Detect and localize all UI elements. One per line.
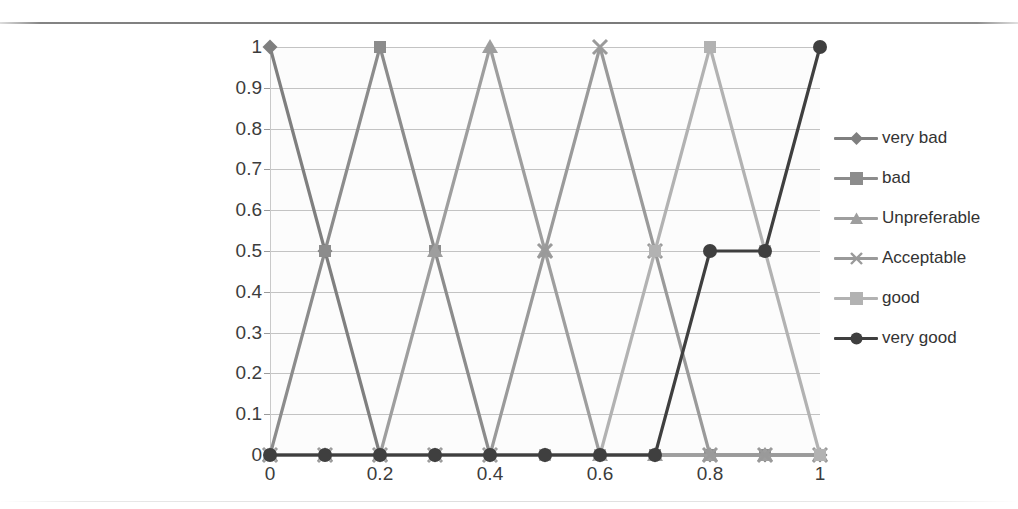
y-tick-label: 0.4 (220, 282, 262, 301)
y-tick-label: 0.2 (220, 363, 262, 382)
y-tick-label: 1 (220, 37, 262, 56)
legend-item-label: good (882, 289, 920, 307)
x-axis-tick-labels: 00.20.40.60.81 (270, 464, 820, 492)
scanned-figure-page: 00.10.20.30.40.50.60.70.80.91 00.20.40.6… (0, 0, 1018, 509)
legend-item-label: Acceptable (882, 249, 966, 267)
data-point-marker (704, 41, 716, 53)
page-top-rule (0, 22, 1018, 24)
chart-legend: very badbadUnpreferableAcceptablegoodver… (834, 118, 1010, 358)
legend-key (834, 169, 878, 187)
x-tick-label: 0.8 (697, 464, 723, 483)
y-tick-label: 0.8 (220, 119, 262, 138)
data-point-marker (758, 244, 772, 258)
x-tick-label: 1 (815, 464, 826, 483)
data-point-marker (483, 448, 497, 462)
legend-key (834, 249, 878, 267)
data-point-marker (538, 448, 552, 462)
data-point-marker (850, 172, 863, 185)
data-point-marker (813, 40, 827, 54)
legend-item-label: Unpreferable (882, 209, 980, 227)
data-point-marker (703, 244, 717, 258)
y-tick-label: 0.6 (220, 200, 262, 219)
data-point-marker (648, 448, 662, 462)
data-point-marker (649, 245, 661, 257)
y-tick-label: 0.1 (220, 404, 262, 423)
data-point-marker (482, 39, 498, 53)
x-tick-label: 0.2 (367, 464, 393, 483)
data-point-marker (373, 448, 387, 462)
y-tick-label: 0.7 (220, 159, 262, 178)
legend-item-label: very bad (882, 129, 947, 147)
x-tick-label: 0.6 (587, 464, 613, 483)
legend-key (834, 129, 878, 147)
page-bottom-rule (0, 501, 1018, 502)
legend-item-good[interactable]: good (834, 278, 1010, 318)
data-point-marker (851, 333, 863, 345)
y-tick-label: 0.9 (220, 78, 262, 97)
data-point-marker (814, 449, 826, 461)
legend-square-icon (850, 291, 863, 304)
legend-item-very-good[interactable]: very good (834, 318, 1010, 358)
x-tick-label: 0.4 (477, 464, 503, 483)
legend-key (834, 209, 878, 227)
data-point-marker (428, 448, 442, 462)
data-point-marker (319, 245, 331, 257)
legend-key (834, 289, 878, 307)
legend-diamond-icon (850, 131, 863, 144)
legend-item-bad[interactable]: bad (834, 158, 1010, 198)
y-tick-label: 0.3 (220, 323, 262, 342)
data-point-marker (318, 448, 332, 462)
legend-circle-icon (850, 331, 863, 344)
data-point-marker (374, 41, 386, 53)
data-point-marker (850, 292, 863, 305)
legend-cross-icon (850, 251, 863, 264)
y-tick-label: 0.5 (220, 241, 262, 260)
legend-item-acceptable[interactable]: Acceptable (834, 238, 1010, 278)
data-point-marker (263, 40, 278, 55)
legend-item-unpreferable[interactable]: Unpreferable (834, 198, 1010, 238)
y-axis-tick-labels: 00.10.20.30.40.50.60.70.80.91 (206, 47, 262, 456)
legend-item-very-bad[interactable]: very bad (834, 118, 1010, 158)
data-point-marker (593, 448, 607, 462)
series-layer (270, 47, 820, 455)
legend-key (834, 329, 878, 347)
legend-square-icon (850, 171, 863, 184)
data-point-marker (850, 132, 863, 145)
data-point-marker (850, 213, 863, 225)
legend-item-label: bad (882, 169, 910, 187)
data-point-marker (263, 448, 277, 462)
legend-triangle-icon (850, 211, 863, 224)
legend-item-label: very good (882, 329, 957, 347)
x-tick-label: 0 (265, 464, 276, 483)
data-point-marker (851, 253, 862, 264)
y-tick-label: 0 (220, 445, 262, 464)
